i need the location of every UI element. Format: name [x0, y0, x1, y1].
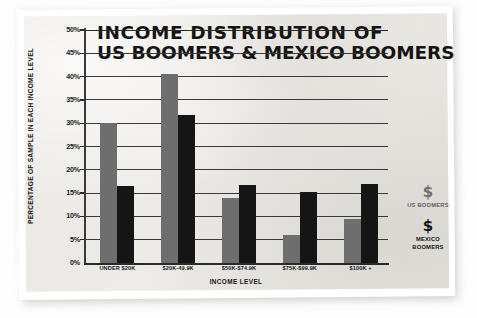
y-tick-label: 5%: [54, 236, 80, 243]
y-tick-label: 45%: [54, 49, 80, 56]
y-tick-label: 40%: [54, 73, 80, 80]
x-tick-label: $100K +: [321, 266, 401, 272]
dollar-sign-icon: $: [392, 185, 464, 200]
legend-label: MEXICOBOOMERS: [392, 236, 464, 252]
bar-mexico-boomers[interactable]: [117, 186, 134, 263]
bar-us-boomers[interactable]: [222, 198, 239, 263]
plot-area: [84, 30, 388, 263]
y-tick-label: 20%: [54, 166, 80, 173]
y-tick-label: 10%: [54, 212, 80, 219]
bar-us-boomers[interactable]: [283, 235, 300, 263]
bar-group: [222, 30, 256, 263]
y-tick-label: 0%: [54, 259, 80, 266]
bar-chart: INCOME DISTRIBUTION OF US BOOMERS & MEXI…: [0, 0, 477, 318]
bar-mexico-boomers[interactable]: [178, 115, 195, 263]
y-tick-label: 35%: [54, 96, 80, 103]
dollar-sign-icon: $: [392, 219, 464, 234]
y-tick-label: 30%: [54, 119, 80, 126]
bar-us-boomers[interactable]: [100, 123, 117, 263]
y-tick-label: 25%: [54, 143, 80, 150]
legend-entry[interactable]: $MEXICOBOOMERS: [392, 219, 464, 252]
bar-group: [161, 30, 195, 263]
bar-us-boomers[interactable]: [161, 74, 178, 263]
bar-mexico-boomers[interactable]: [300, 192, 317, 263]
y-axis-title: PERCENTAGE OF SAMPLE IN EACH INCOME LEVE…: [27, 79, 34, 224]
legend-entry[interactable]: $US BOOMERS: [392, 185, 464, 210]
scanned-page: INCOME DISTRIBUTION OF US BOOMERS & MEXI…: [0, 0, 477, 318]
legend-label: US BOOMERS: [392, 202, 464, 210]
bar-mexico-boomers[interactable]: [361, 184, 378, 263]
y-tick-label: 50%: [54, 26, 80, 33]
y-axis-tick-labels: 50%45%40%35%30%25%20%15%10%5%0%: [48, 0, 80, 318]
y-tick-label: 15%: [54, 189, 80, 196]
chart-legend: $US BOOMERS$MEXICOBOOMERS: [392, 185, 464, 260]
bar-group: [344, 30, 378, 263]
x-axis-title: INCOME LEVEL: [84, 278, 388, 285]
bar-group: [100, 30, 134, 263]
bar-mexico-boomers[interactable]: [239, 185, 256, 263]
bar-group: [283, 30, 317, 263]
bar-us-boomers[interactable]: [344, 219, 361, 263]
